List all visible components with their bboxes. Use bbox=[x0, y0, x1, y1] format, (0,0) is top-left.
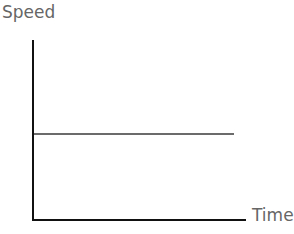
speed-time-chart: Speed Time bbox=[0, 0, 294, 234]
x-axis-label: Time bbox=[252, 205, 294, 225]
y-axis bbox=[32, 40, 34, 221]
y-axis-label: Speed bbox=[2, 2, 55, 22]
x-axis bbox=[32, 219, 246, 221]
constant-speed-line bbox=[34, 133, 234, 135]
